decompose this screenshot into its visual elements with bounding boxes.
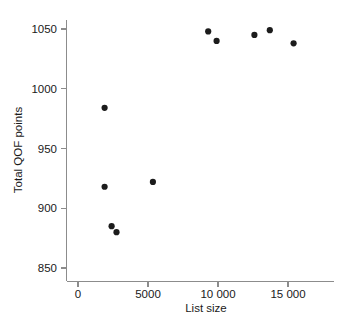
data-point: [214, 38, 220, 44]
y-axis-title: Total QOF points: [12, 107, 24, 194]
plot-area-svg: 85090095010001050 0500010 00015 000 List…: [0, 0, 343, 327]
x-tick-label: 0: [75, 288, 81, 300]
data-point: [291, 40, 297, 46]
data-point: [102, 105, 108, 111]
data-point: [267, 27, 273, 33]
data-point: [102, 184, 108, 190]
x-axis-ticks: 0500010 00015 000: [75, 282, 306, 301]
y-tick-label: 1000: [31, 83, 57, 95]
x-tick-label: 10 000: [200, 288, 235, 300]
x-tick-label: 5000: [135, 288, 161, 300]
data-point: [251, 32, 257, 38]
scatter-chart: 85090095010001050 0500010 00015 000 List…: [0, 0, 343, 327]
y-tick-label: 950: [38, 143, 57, 155]
data-point: [113, 229, 119, 235]
y-tick-label: 1050: [31, 23, 57, 35]
data-point: [150, 179, 156, 185]
x-axis-title: List size: [185, 302, 227, 314]
data-points-layer: [102, 27, 297, 235]
data-point: [205, 28, 211, 34]
y-axis-ticks: 85090095010001050: [31, 23, 66, 274]
y-tick-label: 900: [38, 202, 57, 214]
x-tick-label: 15 000: [270, 288, 305, 300]
data-point: [109, 223, 115, 229]
y-tick-label: 850: [38, 262, 57, 274]
